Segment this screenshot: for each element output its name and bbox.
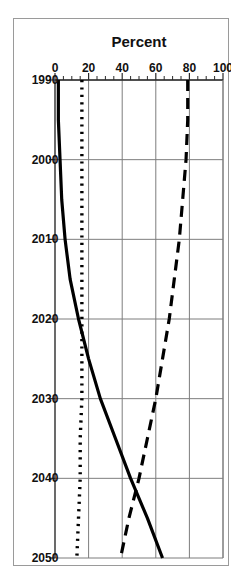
y-tick-label: 0 [51, 61, 58, 75]
x-axis-tick-labels: 1990200020102020203020402050 [31, 73, 58, 565]
chart-canvas: 1990200020102020203020402050 02040608010… [15, 18, 231, 566]
x-tick-label: 2050 [31, 551, 58, 565]
y-axis-tick-labels: 020406080100 [51, 61, 230, 75]
rotated-chart-wrapper: 1990200020102020203020402050 02040608010… [0, 0, 245, 583]
y-tick-label: 40 [115, 61, 129, 75]
line-chart-svg: 1990200020102020203020402050 02040608010… [15, 18, 231, 566]
axis-ticks [49, 73, 223, 558]
y-tick-label: 20 [81, 61, 95, 75]
x-tick-label: 2030 [31, 391, 58, 405]
y-tick-label: 60 [149, 61, 163, 75]
y-tick-label: 100 [212, 61, 230, 75]
y-axis-title-text: Percent [111, 33, 166, 50]
x-tick-label: 2020 [31, 312, 58, 326]
x-tick-label: 2000 [31, 152, 58, 166]
x-tick-label: 2040 [31, 471, 58, 485]
x-tick-label: 2010 [31, 232, 58, 246]
y-tick-label: 80 [182, 61, 196, 75]
y-axis-title: Percent [111, 33, 166, 50]
figure-container: 1990200020102020203020402050 02040608010… [0, 0, 245, 583]
